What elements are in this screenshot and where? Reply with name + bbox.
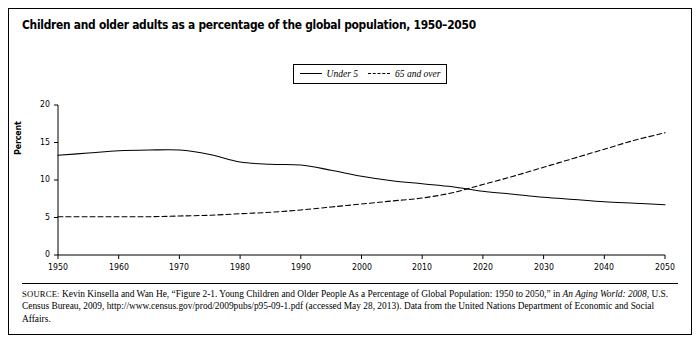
source-text-first: Kevin Kinsella and Wan He, “Figure 2-1. … (60, 289, 563, 299)
source-note: SOURCE: Kevin Kinsella and Wan He, “Figu… (22, 288, 680, 325)
y-tick-label: 5 (33, 212, 50, 222)
x-tick-label: 1990 (282, 262, 319, 272)
y-tick-label: 15 (33, 137, 50, 147)
x-tick-label: 1970 (161, 262, 198, 272)
x-tick-label: 2010 (404, 262, 441, 272)
x-tick-label: 2020 (464, 262, 501, 272)
x-axis-ticks (58, 255, 665, 259)
y-tick-label: 20 (33, 99, 50, 109)
source-italic-title: An Aging World: 2008 (563, 289, 647, 299)
x-tick-label: 1960 (100, 262, 137, 272)
x-tick-label: 2050 (647, 262, 684, 272)
x-tick-label: 2040 (586, 262, 623, 272)
y-tick-label: 10 (33, 174, 50, 184)
x-tick-label: 2000 (343, 262, 380, 272)
series-line-65-and-over (58, 133, 665, 217)
x-tick-label: 1980 (222, 262, 259, 272)
x-tick-label: 1950 (40, 262, 77, 272)
source-divider (22, 283, 678, 284)
y-axis-ticks (54, 105, 58, 255)
y-tick-label: 0 (33, 249, 50, 259)
source-prefix: SOURCE: (22, 289, 60, 299)
figure-container: Children and older adults as a percentag… (0, 0, 700, 343)
chart-axes (58, 105, 665, 255)
x-tick-label: 2030 (525, 262, 562, 272)
